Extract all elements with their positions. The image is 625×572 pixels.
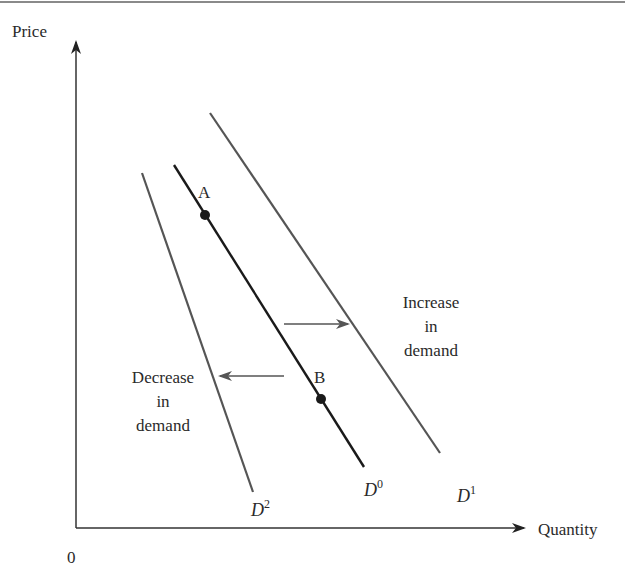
svg-text:Decrease: Decrease	[132, 368, 194, 387]
svg-text:Increase: Increase	[403, 293, 460, 312]
svg-text:demand: demand	[404, 341, 458, 360]
demand-curve-d2	[142, 173, 253, 492]
point-a-label: A	[198, 183, 211, 202]
demand-curve-d0	[174, 165, 364, 467]
x-axis-label: Quantity	[538, 520, 598, 539]
svg-text:in: in	[424, 317, 438, 336]
decrease-annotation: Decrease in demand	[132, 368, 194, 435]
curve-label-d2: D2	[250, 497, 270, 520]
origin-label: 0	[67, 548, 76, 567]
demand-shift-diagram: Price Quantity 0 A B Increase in demand …	[0, 0, 625, 572]
increase-annotation: Increase in demand	[403, 293, 460, 360]
svg-text:demand: demand	[136, 416, 190, 435]
point-b-label: B	[314, 368, 325, 387]
curve-label-d0: D0	[363, 477, 383, 500]
y-axis-label: Price	[12, 22, 47, 41]
curve-label-d1: D1	[456, 483, 476, 506]
svg-text:in: in	[156, 392, 170, 411]
point-a	[200, 210, 210, 220]
point-b	[316, 394, 326, 404]
